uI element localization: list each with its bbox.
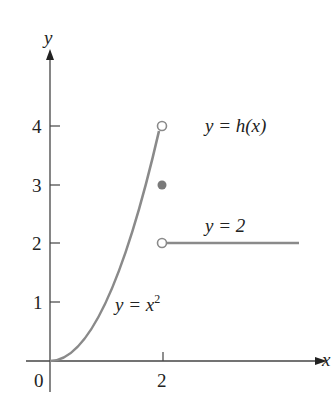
y-tick-label-2: 2	[32, 233, 42, 254]
origin-label: 0	[34, 370, 44, 391]
function-label-const: y = 2	[203, 215, 246, 236]
graph: 4 3 2 1 0 2 y x y = h(x) y = 2 y = x2	[0, 0, 335, 402]
x-tick-label-2: 2	[157, 370, 167, 391]
y-tick-label-3: 3	[32, 175, 42, 196]
function-label-h: y = h(x)	[203, 115, 266, 137]
y-axis-label: y	[42, 27, 53, 48]
x-axis-label: x	[321, 349, 331, 370]
parabola-curve	[50, 131, 159, 361]
y-tick-label-1: 1	[33, 292, 43, 313]
open-point-2-2	[158, 239, 167, 248]
open-point-2-4	[158, 122, 167, 131]
function-label-parabola: y = x2	[113, 292, 160, 315]
y-axis-arrow-icon	[46, 49, 54, 60]
filled-point-2-3	[158, 181, 167, 190]
y-tick-label-4: 4	[32, 116, 42, 137]
